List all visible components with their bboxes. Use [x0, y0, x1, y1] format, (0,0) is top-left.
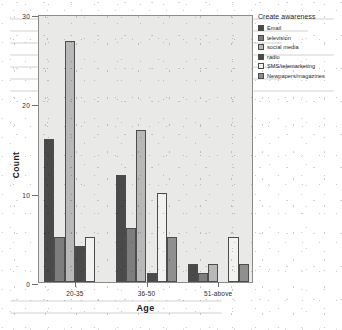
legend-entry-label: SMS/telemarketing	[267, 63, 315, 69]
x-axis-tick	[75, 282, 76, 287]
bar	[208, 264, 218, 282]
bar	[198, 273, 208, 282]
legend-entry: social media	[258, 43, 342, 51]
x-axis-category-label: 20-35	[66, 290, 83, 297]
legend-entry-label: Newpapers/magazines	[267, 73, 325, 79]
bar	[85, 237, 95, 282]
y-axis-tick	[32, 105, 38, 106]
legend-swatch	[258, 54, 264, 60]
legend-swatch	[258, 35, 264, 41]
legend-entries: Emailtelevisionsocial mediaradioSMS/tele…	[258, 24, 342, 80]
y-axis-tick	[32, 16, 38, 17]
y-axis-tick-label: 30	[22, 13, 30, 20]
bar	[228, 237, 238, 282]
bar	[167, 237, 177, 282]
bar	[239, 264, 249, 282]
legend-swatch	[258, 73, 264, 79]
legend-swatch	[258, 25, 264, 31]
legend: Create awareness Emailtelevisionsocial m…	[258, 13, 342, 81]
bar	[75, 246, 85, 282]
y-axis-tick-label: 0	[26, 281, 30, 288]
bar	[116, 175, 126, 282]
legend-swatch	[258, 63, 264, 69]
bar	[65, 41, 75, 282]
y-axis-tick-label: 20	[22, 102, 30, 109]
legend-swatch	[258, 44, 264, 50]
bar	[188, 264, 198, 282]
x-axis-tick	[218, 282, 219, 287]
y-axis-tick	[32, 284, 38, 285]
y-axis-label: Count	[11, 152, 21, 179]
bar	[136, 130, 146, 282]
legend-entry: radio	[258, 53, 342, 61]
legend-entry-label: Email	[267, 25, 281, 31]
legend-entry-label: television	[267, 35, 291, 41]
bar	[44, 139, 54, 282]
bar	[157, 193, 167, 282]
legend-entry-label: social media	[267, 44, 299, 50]
legend-entry-label: radio	[267, 54, 280, 60]
x-axis-label: Age	[38, 303, 253, 313]
legend-entry: SMS/telemarketing	[258, 62, 342, 70]
bar	[147, 273, 157, 282]
bar	[54, 237, 64, 282]
y-axis-tick	[32, 195, 38, 196]
y-axis-tick-label: 10	[22, 191, 30, 198]
bar-chart-figure: Count 0102030 20-3536-5051-above Age Cre…	[0, 0, 342, 330]
legend-title: Create awareness	[258, 13, 342, 20]
legend-entry: Email	[258, 24, 342, 32]
x-axis-category-label: 51-above	[204, 290, 232, 297]
legend-entry: Newpapers/magazines	[258, 72, 342, 80]
plot-area: 0102030 20-3536-5051-above	[38, 15, 253, 283]
x-axis-category-label: 36-50	[138, 290, 155, 297]
bar	[126, 228, 136, 282]
legend-entry: television	[258, 34, 342, 42]
x-axis-tick	[147, 282, 148, 287]
